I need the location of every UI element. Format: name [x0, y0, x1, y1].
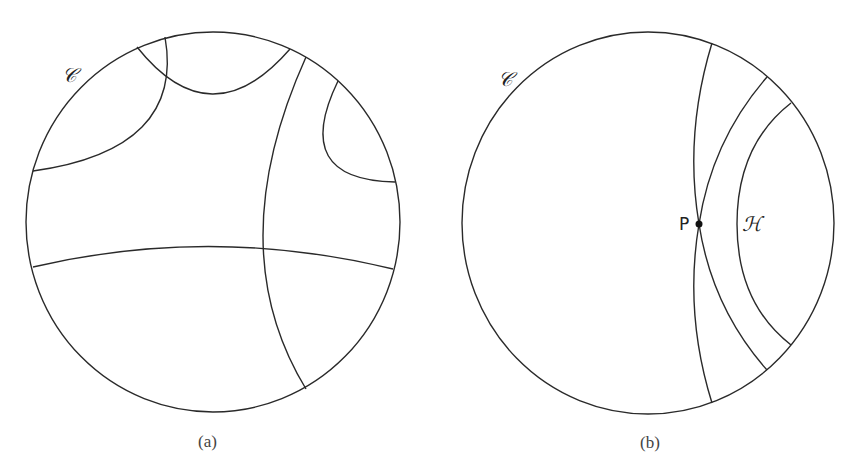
- line-h-label: ℋ: [742, 212, 765, 236]
- geodesic-top-a: [137, 47, 290, 94]
- boundary-circle-b: [462, 32, 834, 414]
- point-p: [696, 221, 703, 228]
- caption-a: (a): [198, 432, 217, 451]
- point-p-label: P: [679, 214, 689, 234]
- hyperbolic-geometry-figure: 𝒞 (a) P ℋ 𝒞 (b): [0, 0, 858, 466]
- panel-a: 𝒞 (a): [26, 32, 400, 451]
- geodesic-right-small-a: [323, 81, 395, 182]
- boundary-circle-a: [26, 32, 400, 412]
- circle-label-b: 𝒞: [498, 67, 518, 91]
- geodesic-horizontal-a: [33, 246, 393, 269]
- circle-label-a: 𝒞: [62, 63, 82, 87]
- panel-b: P ℋ 𝒞 (b): [462, 32, 834, 452]
- geodesic-vertical-a: [263, 57, 306, 389]
- geodesic-upper-left-a: [33, 37, 167, 171]
- caption-b: (b): [640, 433, 660, 452]
